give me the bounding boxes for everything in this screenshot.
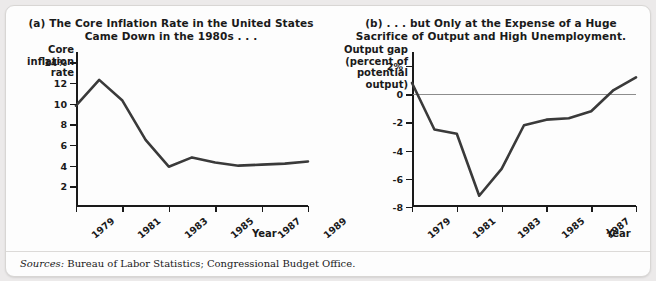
- x-tick-mark: [122, 206, 123, 212]
- x-tick-label: 1985: [560, 215, 587, 240]
- y-tick-mark: [70, 104, 77, 105]
- x-tick-mark: [636, 206, 637, 212]
- sources-label: Sources:: [20, 258, 64, 269]
- y-tick-label: 12: [54, 78, 67, 89]
- y-tick-label: 0: [396, 89, 403, 100]
- y-tick-label: 10: [54, 98, 67, 109]
- x-tick-mark: [502, 206, 503, 212]
- y-tick-mark: [70, 145, 77, 146]
- x-tick-mark: [591, 206, 592, 212]
- panel-a-series-line: [76, 52, 308, 207]
- x-tick-label: 1979: [89, 215, 116, 240]
- panel-b-title-line2: Sacrifice of Output and High Unemploymen…: [332, 30, 650, 43]
- panel-b-series-line: [412, 52, 636, 207]
- sources-note: Sources: Bureau of Labor Statistics; Con…: [20, 258, 355, 269]
- y-tick-label: -4: [392, 145, 403, 156]
- figure-frame: (a) The Core Inflation Rate in the Unite…: [5, 5, 651, 277]
- y-tick-mark: [406, 66, 413, 67]
- y-tick-mark: [70, 62, 77, 63]
- chart-panel-a: (a) The Core Inflation Rate in the Unite…: [6, 6, 336, 250]
- panel-b-title-line1: (b) . . . but Only at the Expense of a H…: [332, 17, 650, 30]
- y-tick-label: 6: [60, 140, 67, 151]
- y-tick-mark: [70, 166, 77, 167]
- chart-panel-b: (b) . . . but Only at the Expense of a H…: [332, 6, 650, 250]
- y-tick-mark: [406, 122, 413, 123]
- y-tick-mark: [406, 151, 413, 152]
- x-tick-label: 1983: [515, 215, 542, 240]
- y-tick-mark: [70, 124, 77, 125]
- y-tick-mark: [70, 83, 77, 84]
- y-tick-label: 8: [60, 119, 67, 130]
- x-tick-label: 1981: [470, 215, 497, 240]
- y-tick-label: -6: [392, 173, 403, 184]
- x-tick-mark: [412, 206, 413, 212]
- panel-b-title: (b) . . . but Only at the Expense of a H…: [332, 17, 650, 42]
- x-tick-label: 1987: [275, 215, 302, 240]
- x-tick-mark: [169, 206, 170, 212]
- y-tick-label: 2%: [387, 61, 403, 72]
- y-tick-mark: [406, 94, 413, 95]
- x-tick-mark: [76, 206, 77, 212]
- x-tick-mark: [215, 206, 216, 212]
- panel-b-x-axis-label: Year: [606, 228, 631, 239]
- sources-text: Bureau of Labor Statistics; Congressiona…: [64, 258, 355, 269]
- x-tick-mark: [546, 206, 547, 212]
- y-tick-mark: [406, 179, 413, 180]
- panel-a-title-line2: Came Down in the 1980s . . .: [6, 30, 336, 43]
- source-divider: [6, 251, 650, 252]
- y-tick-label: -8: [392, 202, 403, 213]
- x-tick-mark: [308, 206, 309, 212]
- y-tick-mark: [70, 186, 77, 187]
- panel-b-plot-area: 2%0-2-4-6-8197919811983198519871989: [412, 52, 636, 207]
- panel-a-title-line1: (a) The Core Inflation Rate in the Unite…: [6, 17, 336, 30]
- x-tick-label: 1981: [136, 215, 163, 240]
- x-tick-label: 1979: [425, 215, 452, 240]
- x-tick-label: 1983: [182, 215, 209, 240]
- x-tick-label: 1989: [649, 215, 651, 240]
- x-tick-mark: [262, 206, 263, 212]
- panel-a-x-axis-label: Year: [252, 228, 277, 239]
- y-tick-label: 4: [60, 160, 67, 171]
- y-tick-label: -2: [392, 117, 403, 128]
- x-tick-mark: [457, 206, 458, 212]
- panel-a-title: (a) The Core Inflation Rate in the Unite…: [6, 17, 336, 42]
- panel-a-plot-area: 14%12108642197919811983198519871989: [76, 52, 308, 207]
- y-tick-label: 2: [60, 181, 67, 192]
- y-tick-label: 14%: [44, 57, 67, 68]
